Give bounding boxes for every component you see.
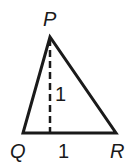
- vertex-label-q: Q: [10, 140, 26, 162]
- vertex-label-p: P: [43, 8, 57, 30]
- vertex-label-r: R: [110, 140, 124, 162]
- base-length-label: 1: [58, 140, 69, 162]
- triangle-pqr: [23, 37, 116, 133]
- altitude-length-label: 1: [55, 83, 66, 105]
- triangle-diagram: P Q R 1 1: [0, 0, 135, 162]
